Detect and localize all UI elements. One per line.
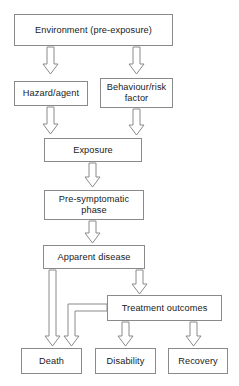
arrow-apparent-to-treatment xyxy=(132,270,147,294)
node-recovery[interactable]: Recovery xyxy=(168,348,228,374)
arrow-treatment-to-disability xyxy=(118,322,133,346)
node-disability-label: Disability xyxy=(107,356,145,367)
node-hazard-agent[interactable]: Hazard/agent xyxy=(14,81,88,106)
node-exposure[interactable]: Exposure xyxy=(44,138,142,162)
node-hazard-agent-label: Hazard/agent xyxy=(23,88,79,99)
node-exposure-label: Exposure xyxy=(73,145,113,156)
node-environment[interactable]: Environment (pre-exposure) xyxy=(14,14,173,46)
node-treatment-outcomes[interactable]: Treatment outcomes xyxy=(107,295,222,321)
arrow-behaviour-to-exposure xyxy=(129,109,144,135)
flowchart-diagram: Environment (pre-exposure) Hazard/agent … xyxy=(0,0,239,386)
node-disability[interactable]: Disability xyxy=(95,348,156,374)
node-environment-label: Environment (pre-exposure) xyxy=(35,25,152,36)
node-pre-symptomatic-phase-label-line2: phase xyxy=(81,205,107,216)
arrow-apparent-to-death xyxy=(45,270,60,346)
arrow-exposure-to-presymptomatic xyxy=(85,163,100,187)
arrow-environment-to-hazard xyxy=(43,47,58,74)
arrow-environment-to-behaviour xyxy=(129,47,144,74)
node-apparent-disease[interactable]: Apparent disease xyxy=(43,245,145,269)
node-pre-symptomatic-phase[interactable]: Pre-symptomatic phase xyxy=(44,190,144,220)
node-death[interactable]: Death xyxy=(21,348,82,374)
node-recovery-label: Recovery xyxy=(178,356,218,367)
arrow-hazard-to-exposure xyxy=(43,107,58,134)
node-behaviour-risk-factor-label-line1: Behaviour/risk xyxy=(107,82,167,93)
arrow-presymptomatic-to-apparent xyxy=(85,221,100,243)
node-behaviour-risk-factor[interactable]: Behaviour/risk factor xyxy=(100,78,173,108)
node-apparent-disease-label: Apparent disease xyxy=(57,252,130,263)
node-pre-symptomatic-phase-label-line1: Pre-symptomatic xyxy=(59,194,129,205)
node-death-label: Death xyxy=(39,356,64,367)
node-behaviour-risk-factor-label-line2: factor xyxy=(125,93,149,104)
node-treatment-outcomes-label: Treatment outcomes xyxy=(122,303,208,314)
arrow-treatment-to-recovery xyxy=(186,322,201,346)
arrow-treatment-to-death-elbow xyxy=(64,304,107,346)
